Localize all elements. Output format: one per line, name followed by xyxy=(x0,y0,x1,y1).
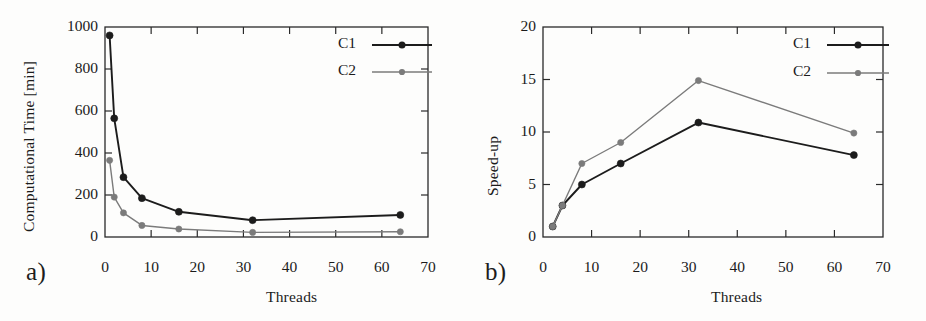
y-axis-tick-label: 600 xyxy=(41,101,98,119)
data-point-c1 xyxy=(249,217,256,224)
legend-label-c2: C2 xyxy=(793,62,811,80)
y-axis-tick-label: 15 xyxy=(479,70,536,88)
legend-marker-c2 xyxy=(855,70,861,76)
y-axis-tick-label: 20 xyxy=(479,17,536,35)
legend-marker-c1 xyxy=(399,42,406,49)
data-point-c1 xyxy=(111,115,118,122)
y-axis-tick-label: 800 xyxy=(41,59,98,77)
y-axis-tick-label: 200 xyxy=(41,185,98,203)
chart-panel-b: b) 01020304050607005101520C1C2Speed-upTh… xyxy=(463,0,926,321)
x-axis-title: Threads xyxy=(711,288,762,306)
y-axis-title: Speed-up xyxy=(484,136,502,196)
data-point-c2 xyxy=(250,229,256,235)
data-point-c1 xyxy=(578,181,585,188)
y-axis-title: Computational Time [min] xyxy=(20,61,38,232)
data-point-c1 xyxy=(175,208,182,215)
data-point-c2 xyxy=(111,194,117,200)
data-point-c2 xyxy=(851,130,857,136)
x-axis-tick-label: 40 xyxy=(712,258,762,276)
x-axis-tick-label: 70 xyxy=(403,258,453,276)
data-point-c2 xyxy=(176,226,182,232)
panel-a-letter: a) xyxy=(26,258,46,286)
data-point-c2 xyxy=(120,210,126,216)
x-axis-tick-label: 60 xyxy=(809,258,859,276)
series-line-c2 xyxy=(553,81,854,227)
data-point-c1 xyxy=(397,211,404,218)
plot-frame xyxy=(105,27,428,237)
data-point-c2 xyxy=(550,223,556,229)
x-axis-title: Threads xyxy=(266,288,317,306)
figure-container: a) 01020304050607002004006008001000C1C2C… xyxy=(0,0,926,321)
data-point-c1 xyxy=(850,152,857,159)
x-axis-tick-label: 60 xyxy=(357,258,407,276)
y-axis-tick-label: 1000 xyxy=(41,17,98,35)
plot-frame xyxy=(543,27,883,237)
x-axis-tick-label: 0 xyxy=(80,258,130,276)
series-line-c1 xyxy=(110,35,401,220)
x-axis-tick-label: 50 xyxy=(311,258,361,276)
panel-b-letter: b) xyxy=(485,258,506,286)
legend-marker-c2 xyxy=(399,69,405,75)
x-axis-tick-label: 30 xyxy=(218,258,268,276)
x-axis-tick-label: 50 xyxy=(761,258,811,276)
data-point-c1 xyxy=(138,195,145,202)
series-line-c1 xyxy=(553,123,854,227)
series-line-c2 xyxy=(110,160,401,232)
x-axis-tick-label: 10 xyxy=(567,258,617,276)
data-point-c1 xyxy=(695,119,702,126)
data-point-c2 xyxy=(559,202,565,208)
data-point-c1 xyxy=(617,160,624,167)
x-axis-tick-label: 0 xyxy=(518,258,568,276)
x-axis-tick-label: 30 xyxy=(664,258,714,276)
y-axis-tick-label: 400 xyxy=(41,143,98,161)
legend-marker-c1 xyxy=(855,42,862,49)
data-point-c2 xyxy=(139,222,145,228)
x-axis-tick-label: 20 xyxy=(172,258,222,276)
x-axis-tick-label: 70 xyxy=(858,258,908,276)
data-point-c1 xyxy=(559,202,566,209)
y-axis-tick-label: 0 xyxy=(41,227,98,245)
legend-label-c1: C1 xyxy=(338,34,356,52)
y-axis-tick-label: 0 xyxy=(479,227,536,245)
chart-panel-a: a) 01020304050607002004006008001000C1C2C… xyxy=(0,0,463,321)
legend-label-c2: C2 xyxy=(338,61,356,79)
data-point-c2 xyxy=(618,139,624,145)
data-point-c1 xyxy=(549,223,556,230)
x-axis-tick-label: 40 xyxy=(265,258,315,276)
data-point-c1 xyxy=(120,174,127,181)
legend-label-c1: C1 xyxy=(793,34,811,52)
data-point-c2 xyxy=(579,160,585,166)
data-point-c2 xyxy=(107,157,113,163)
data-point-c2 xyxy=(397,229,403,235)
x-axis-tick-label: 20 xyxy=(615,258,665,276)
data-point-c2 xyxy=(695,77,701,83)
x-axis-tick-label: 10 xyxy=(126,258,176,276)
data-point-c1 xyxy=(106,32,113,39)
